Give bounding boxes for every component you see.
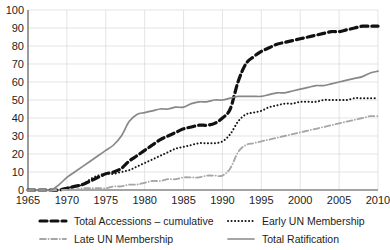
legend-label: Total Accessions – cumulative	[74, 215, 214, 227]
chart-legend: Total Accessions – cumulativeEarly UN Me…	[40, 215, 365, 245]
y-tick-label: 80	[12, 40, 24, 52]
x-tick-label: 1965	[16, 194, 40, 206]
x-tick-label: 1995	[249, 194, 273, 206]
legend-label: Total Ratification	[262, 233, 339, 245]
x-tick-label: 1980	[132, 194, 156, 206]
series-line	[28, 71, 378, 190]
series-line	[28, 98, 378, 190]
x-tick-label: 1975	[94, 194, 118, 206]
x-tick-label: 1990	[210, 194, 234, 206]
x-tick-label: 2010	[366, 194, 390, 206]
data-series	[28, 26, 378, 190]
line-chart: 0102030405060708090100 19651970197519801…	[0, 0, 390, 250]
x-tick-label: 1985	[171, 194, 195, 206]
x-tick-label: 2000	[288, 194, 312, 206]
y-tick-label: 20	[12, 148, 24, 160]
y-tick-label: 60	[12, 76, 24, 88]
x-tick-labels: 1965197019751980198519901995200020052010	[16, 194, 390, 206]
legend-label: Early UN Membership	[262, 215, 365, 227]
legend-label: Late UN Membership	[74, 233, 173, 245]
x-tick-label: 1970	[55, 194, 79, 206]
series-line	[28, 116, 378, 190]
y-tick-label: 90	[12, 22, 24, 34]
y-tick-label: 100	[6, 4, 24, 16]
y-tick-label: 40	[12, 112, 24, 124]
x-tick-label: 2005	[327, 194, 351, 206]
y-tick-label: 50	[12, 94, 24, 106]
y-tick-label: 10	[12, 166, 24, 178]
series-line	[28, 26, 378, 190]
y-tick-label: 70	[12, 58, 24, 70]
y-tick-labels: 0102030405060708090100	[6, 4, 24, 196]
y-tick-label: 30	[12, 130, 24, 142]
chart-container: 0102030405060708090100 19651970197519801…	[0, 0, 390, 250]
